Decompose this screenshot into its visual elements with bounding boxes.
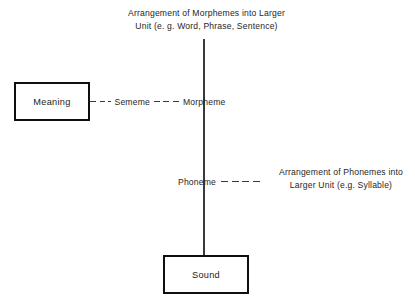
dash-segment [90, 101, 96, 102]
dash-group-phoneme-to-caption [221, 181, 260, 182]
dash-segment [232, 181, 239, 182]
caption-top-line-1: Arrangement of Morphemes into Larger [0, 7, 414, 20]
node-label-sememe: Sememe [115, 97, 150, 107]
caption-top-arrangement-of-morphemes: Arrangement of Morphemes into Larger Uni… [0, 7, 414, 33]
dash-segment [242, 181, 249, 182]
node-label-phoneme: Phoneme [178, 177, 216, 187]
dash-segment [221, 181, 228, 182]
connector-row-sememe-morpheme: Sememe Morpheme [90, 95, 226, 108]
dash-segment [154, 101, 160, 102]
dash-segment [163, 101, 169, 102]
box-sound-label: Sound [192, 270, 220, 280]
caption-right-arrangement-of-phonemes: Arrangement of Phonemes into Larger Unit… [267, 166, 415, 192]
connector-row-phoneme: Phoneme [178, 175, 260, 188]
dash-segment [253, 181, 260, 182]
box-meaning: Meaning [14, 82, 90, 121]
vertical-spine-line [203, 39, 205, 256]
dash-group-meaning-to-sememe [90, 101, 111, 102]
caption-top-line-2: Unit (e. g. Word, Phrase, Sentence) [0, 20, 414, 33]
dash-segment [108, 101, 111, 102]
node-label-morpheme: Morpheme [183, 97, 226, 107]
caption-right-line-2: Larger Unit (e.g. Syllable) [267, 179, 415, 192]
dash-segment [173, 101, 179, 102]
diagram-canvas: Arrangement of Morphemes into Larger Uni… [0, 0, 415, 307]
box-sound: Sound [163, 255, 249, 294]
dash-segment [100, 101, 105, 102]
caption-right-line-1: Arrangement of Phonemes into [267, 166, 415, 179]
box-meaning-label: Meaning [33, 97, 70, 107]
dash-group-sememe-to-morpheme [154, 101, 179, 102]
